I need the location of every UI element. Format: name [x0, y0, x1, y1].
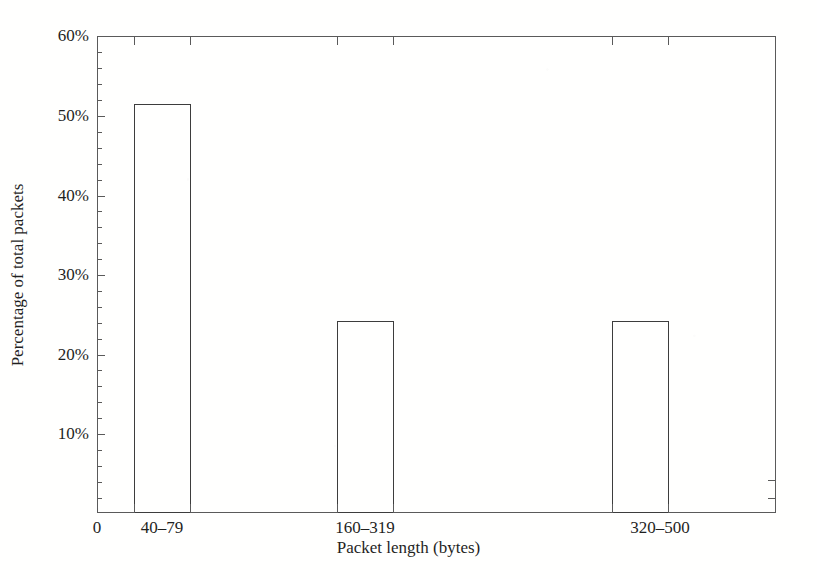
y-tick-minor	[97, 498, 102, 499]
y-tick-right	[768, 480, 776, 481]
y-tick-minor	[97, 402, 102, 403]
y-tick-minor	[97, 466, 102, 467]
y-tick-minor	[97, 323, 102, 324]
y-tick-minor	[97, 418, 102, 419]
x-tick	[668, 504, 669, 513]
y-axis-label-50: 50%	[45, 107, 89, 124]
x-axis-label-40-79: 40–79	[141, 518, 184, 537]
y-tick-minor	[97, 148, 102, 149]
y-tick-40	[97, 196, 105, 197]
x-tick-top	[668, 36, 669, 45]
bar-chart-figure: 60% 50% 40% 30% 20% 10% 0 40–79 160–319 …	[0, 0, 817, 579]
x-tick-top	[134, 36, 135, 45]
y-axis-title: Percentage of total packets	[9, 184, 27, 367]
y-tick-minor	[97, 132, 102, 133]
y-axis-label-20: 20%	[45, 346, 89, 363]
y-tick-minor	[97, 100, 102, 101]
bar-320-500	[612, 321, 669, 513]
y-tick-minor	[97, 370, 102, 371]
bar-40-79	[134, 104, 191, 513]
x-tick-top	[337, 36, 338, 45]
y-axis-label-30: 30%	[45, 266, 89, 283]
x-axis-label-320-500: 320–500	[630, 518, 690, 537]
y-tick-minor	[97, 259, 102, 260]
x-tick	[134, 504, 135, 513]
y-tick-minor	[97, 211, 102, 212]
y-tick-60	[97, 36, 105, 37]
y-tick-minor	[97, 52, 102, 53]
y-tick-minor	[97, 450, 102, 451]
y-tick-minor	[97, 164, 102, 165]
y-axis-label-10: 10%	[45, 425, 89, 442]
x-tick-top	[190, 36, 191, 45]
y-tick-10	[97, 434, 105, 435]
y-tick-minor	[97, 386, 102, 387]
y-tick-20	[97, 355, 105, 356]
x-axis-label-origin: 0	[93, 518, 102, 537]
y-axis-label-60: 60%	[45, 27, 89, 44]
x-tick	[612, 504, 613, 513]
y-axis-label-40: 40%	[45, 187, 89, 204]
y-tick-minor	[97, 291, 102, 292]
plot-frame	[97, 36, 776, 513]
y-tick-50	[97, 116, 105, 117]
x-tick-top	[612, 36, 613, 45]
x-tick-top	[393, 36, 394, 45]
x-tick	[337, 504, 338, 513]
x-tick	[393, 504, 394, 513]
y-tick-minor	[97, 227, 102, 228]
y-tick-right	[768, 498, 776, 499]
y-tick-minor	[97, 180, 102, 181]
x-axis-title: Packet length (bytes)	[0, 538, 817, 558]
x-tick	[190, 504, 191, 513]
y-tick-minor	[97, 339, 102, 340]
y-tick-minor	[97, 84, 102, 85]
bar-160-319	[337, 321, 394, 513]
y-tick-minor	[97, 307, 102, 308]
y-tick-minor	[97, 482, 102, 483]
y-tick-minor	[97, 243, 102, 244]
y-tick-minor	[97, 68, 102, 69]
x-axis-label-160-319: 160–319	[335, 518, 395, 537]
y-tick-30	[97, 275, 105, 276]
